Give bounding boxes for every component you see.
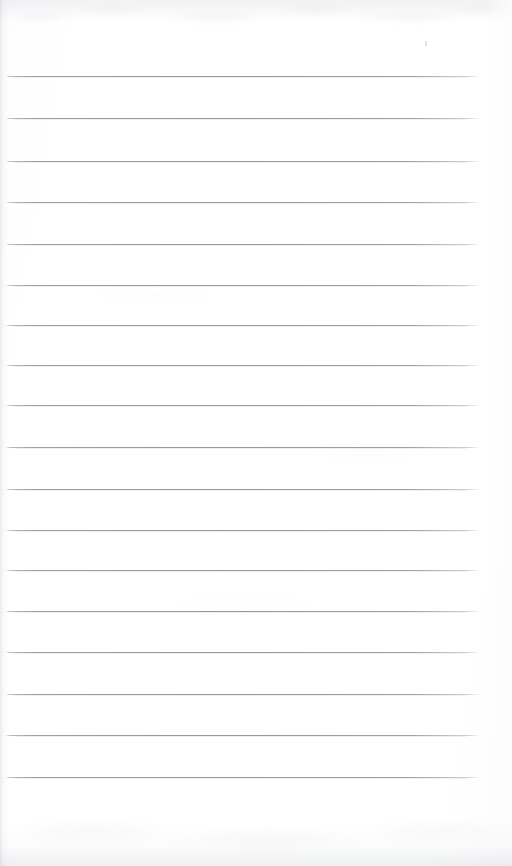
rule-line (5, 365, 480, 366)
rule-line (5, 777, 480, 778)
rule-line (5, 244, 480, 245)
rule-line (5, 570, 480, 571)
rule-line (5, 325, 480, 326)
rule-line (5, 161, 480, 162)
rule-line (5, 530, 480, 531)
rule-line (5, 652, 480, 653)
rule-line (5, 447, 480, 448)
rule-line (5, 611, 480, 612)
notebook-page (0, 0, 512, 866)
rule-line (5, 489, 480, 490)
rule-line (5, 405, 480, 406)
rule-line (5, 76, 480, 77)
rule-line (5, 735, 480, 736)
ruled-lines-layer (0, 0, 512, 866)
rule-line (5, 285, 480, 286)
rule-line (5, 202, 480, 203)
rule-line (5, 694, 480, 695)
rule-line (5, 118, 480, 119)
